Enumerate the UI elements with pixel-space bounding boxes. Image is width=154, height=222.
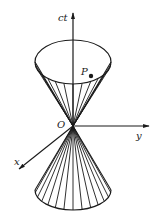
past-cone-generator-line <box>48 126 73 205</box>
y-axis-label: y <box>135 130 142 141</box>
past-cone-generator-line <box>73 126 109 197</box>
past-cone-generator-line <box>73 126 104 201</box>
past-cone-generator-line <box>73 126 91 208</box>
past-cone-generators <box>35 126 110 210</box>
future-cone-left-edge <box>35 62 73 126</box>
past-cone-generator-line <box>38 126 74 197</box>
past-cone-generator-line <box>42 126 73 201</box>
point-p-label: P <box>80 66 88 77</box>
light-cone-diagram: ct P O y x <box>0 0 154 222</box>
event-point-p <box>89 74 93 78</box>
x-axis-label: x <box>14 156 20 167</box>
future-cone-generator-line <box>73 82 91 127</box>
origin-label: O <box>57 119 65 130</box>
past-cone-generator-line <box>73 126 98 205</box>
time-axis-label: ct <box>58 12 69 23</box>
future-cone-right-edge <box>73 62 111 126</box>
